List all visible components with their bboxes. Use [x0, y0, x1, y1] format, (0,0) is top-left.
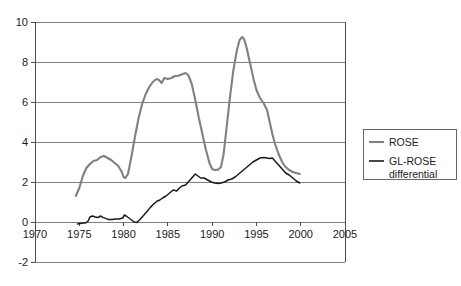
x-tick-label-1990: 1990	[200, 228, 224, 240]
chart-container: -20246810 197019751980198519901995200020…	[0, 0, 461, 286]
x-tick-label-1985: 1985	[156, 228, 180, 240]
x-tick-label-2005: 2005	[333, 228, 357, 240]
y-tick-label-0: 0	[22, 216, 28, 228]
x-tick-label-1995: 1995	[244, 228, 268, 240]
x-tick-label-1970: 1970	[23, 228, 47, 240]
y-tick-label-4: 4	[22, 136, 28, 148]
x-tick-label-2000: 2000	[288, 228, 312, 240]
line-chart: -20246810 197019751980198519901995200020…	[0, 0, 461, 286]
y-tick-label-10: 10	[16, 16, 28, 28]
legend-label-gl-rose: GL-ROSE	[389, 155, 436, 167]
chart-legend: ROSEGL-ROSEdifferential	[363, 129, 456, 180]
x-tick-label-1975: 1975	[67, 228, 91, 240]
legend-label-gl-rose-line2: differential	[389, 168, 437, 180]
x-tick-label-1980: 1980	[111, 228, 135, 240]
y-tick-label-8: 8	[22, 56, 28, 68]
y-tick-label-2: 2	[22, 176, 28, 188]
y-tick-label--2: -2	[18, 256, 28, 268]
legend-label-rose: ROSE	[389, 136, 419, 148]
y-tick-label-6: 6	[22, 96, 28, 108]
